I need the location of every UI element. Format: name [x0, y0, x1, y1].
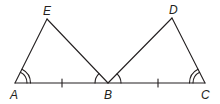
label-a: A	[9, 88, 18, 102]
segment-ae	[15, 19, 47, 83]
segment-dc	[172, 18, 205, 83]
segment-bd	[108, 18, 172, 83]
label-b: B	[104, 88, 112, 102]
label-d: D	[169, 3, 178, 17]
angle-mark-a	[20, 69, 30, 83]
angle-mark-c	[190, 69, 200, 83]
angle-mark-b-left	[95, 74, 99, 83]
geometry-diagram: E D A B C	[0, 0, 220, 104]
label-c: C	[201, 88, 210, 102]
angle-mark-b-right	[117, 74, 121, 83]
label-e: E	[43, 4, 52, 18]
